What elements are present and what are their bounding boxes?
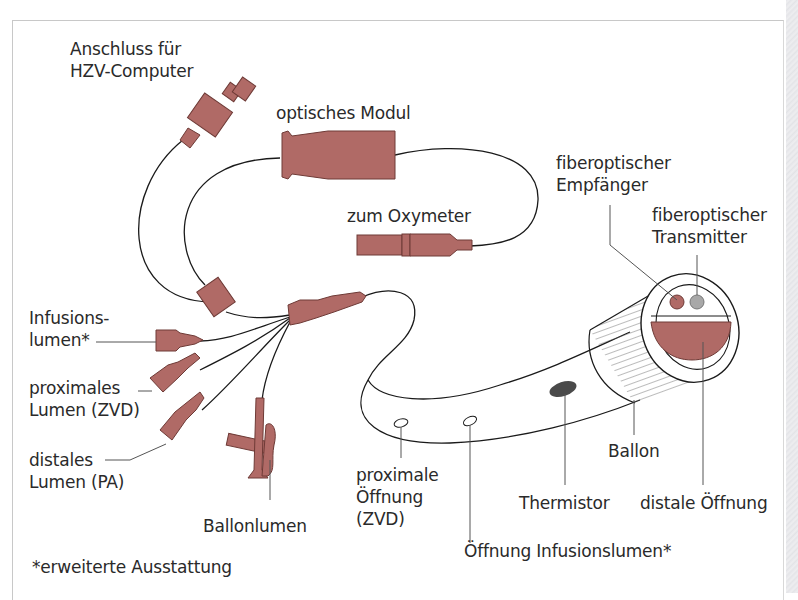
label-distal-lumen: distales Lumen (PA) [29, 449, 124, 493]
label-fiber-receiver: fiberoptischer Empfänger [556, 152, 671, 196]
catheter-body-top [368, 332, 630, 399]
infusion-lumen-connector [156, 330, 203, 351]
oxymeter-cable [395, 149, 538, 246]
label-oxymeter: zum Oxymeter [347, 205, 471, 227]
footnote: *erweiterte Ausstattung [32, 556, 232, 578]
optical-module [282, 131, 395, 179]
catheter-hub [288, 292, 366, 325]
label-optical-module: optisches Modul [276, 102, 411, 124]
label-proximal-opening: proximale Öffnung (ZVD) [356, 464, 438, 530]
fiber-transmitter-dot [690, 295, 704, 309]
label-balloon: Ballon [608, 440, 660, 462]
catheter-body-bottom [361, 380, 640, 443]
distal-lumen-line [202, 320, 290, 410]
fiber-receiver-dot [670, 295, 684, 309]
thermistor-sensor [548, 378, 579, 400]
label-hzv-connector: Anschluss für HZV-Computer [70, 38, 193, 82]
optical-cable-left [184, 158, 280, 285]
proximal-lumen-line [200, 318, 290, 370]
oxymeter-connector [357, 234, 472, 256]
label-infusion-lumen: Infusions- lumen* [29, 307, 109, 351]
catheter-shaft [362, 291, 415, 380]
proximal-opening-hole [393, 417, 409, 428]
label-thermistor: Thermistor [519, 492, 610, 514]
label-proximal-lumen: proximales Lumen (ZVD) [29, 377, 140, 421]
distal-lumen-connector [160, 392, 204, 440]
label-balloon-lumen: Ballonlumen [203, 515, 307, 537]
balloon-syringe [226, 398, 275, 478]
label-infusion-opening: Öffnung Infusionslumen* [464, 540, 671, 562]
label-distal-opening: distale Öffnung [640, 492, 768, 514]
label-fiber-transmitter: fiberoptischer Transmitter [652, 204, 767, 248]
hzv-connector [180, 77, 256, 148]
infusion-lumen-line [200, 317, 290, 341]
proximal-lumen-connector [150, 353, 200, 392]
